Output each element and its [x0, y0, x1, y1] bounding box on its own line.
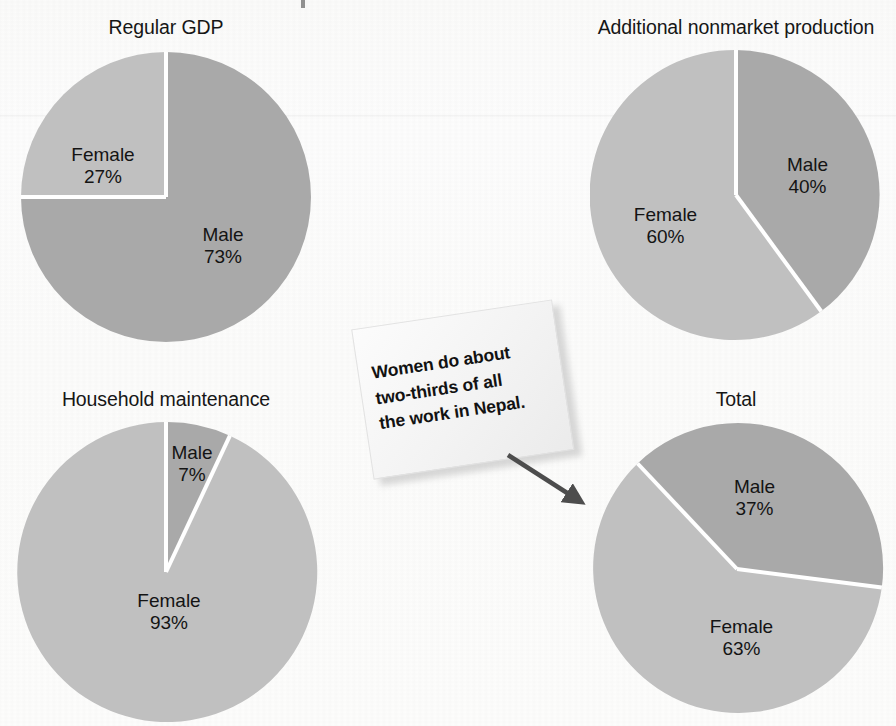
pie-graphic-household-maintenance: Male 7% Female 93% [14, 420, 318, 724]
pie-svg-household-maintenance [14, 420, 318, 724]
pie-graphic-total: Male 37% Female 63% [589, 421, 885, 717]
pie-chart-total: Total Male 37% Female 63% [576, 388, 896, 722]
pie-chart-additional-nonmarket-production: Additional nonmarket production Male 40%… [576, 16, 896, 366]
chart-title-total: Total [576, 388, 896, 411]
pie-graphic-regular-gdp: Female 27% Male 73% [18, 49, 314, 345]
pie-svg-total [589, 421, 885, 717]
pie-svg-additional-nonmarket-production [590, 49, 882, 341]
chart-title-household-maintenance: Household maintenance [12, 388, 320, 411]
pie-graphic-additional-nonmarket-production: Male 40% Female 60% [590, 49, 882, 341]
cropped-title-descender-mark [301, 0, 305, 8]
chart-title-regular-gdp: Regular GDP [12, 16, 320, 39]
pie-chart-regular-gdp: Regular GDP Female 27% Male 73% [12, 16, 320, 366]
chart-title-additional-nonmarket-production: Additional nonmarket production [576, 16, 896, 39]
callout-note: Women do about two-thirds of all the wor… [351, 298, 583, 489]
slice-female-regular-gdp [21, 52, 166, 197]
pie-svg-regular-gdp [18, 49, 314, 345]
pie-chart-household-maintenance: Household maintenance Male 7% Female 93% [12, 388, 320, 722]
